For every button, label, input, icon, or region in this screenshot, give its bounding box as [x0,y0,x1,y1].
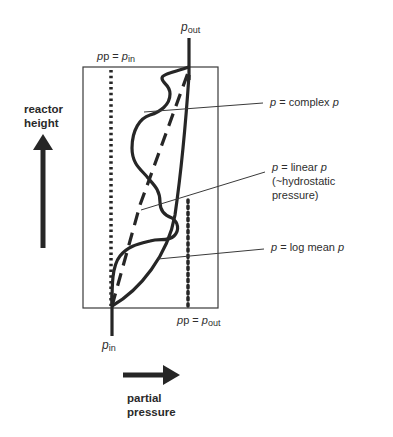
p-equals-p-in-label: pp = pin [97,50,135,62]
y-axis-label: reactor height [24,102,63,130]
p-out-top-label: pout [181,20,200,34]
linear-leader [141,172,265,210]
p-equals-p-out-label: pp = pout [177,314,220,326]
linear-p-label: p = linear p (~hydrostatic pressure) [272,160,335,202]
x-axis-label: partial pressure [127,391,176,419]
log-mean-leader [158,249,264,259]
right-arrow-icon [163,365,180,385]
up-arrow-icon [33,134,53,150]
complex-p-label: p = complex p [270,96,339,108]
log-mean-p-label: p = log mean p [271,241,344,253]
p-in-bottom-label: pin [102,338,116,352]
diagram-canvas [0,0,393,437]
